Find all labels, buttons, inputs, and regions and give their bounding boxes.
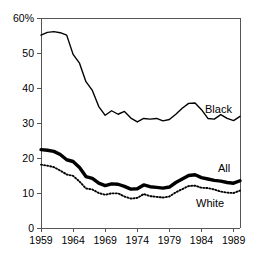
poverty-rate-line-chart: 0102030405060% 1959196419691974197919841… <box>0 0 256 259</box>
y-tick-label: 40 <box>22 82 34 94</box>
y-tick-label: 20 <box>22 152 34 164</box>
x-tick-label: 1979 <box>158 234 182 246</box>
y-tick-label: 30 <box>22 117 34 129</box>
series-label-black: Black <box>205 103 232 115</box>
series-line-all <box>41 150 240 190</box>
y-tick-label: 60% <box>13 12 34 24</box>
x-tick-label: 1984 <box>190 234 214 246</box>
x-tick-label: 1989 <box>222 234 246 246</box>
y-axis-ticks: 0102030405060% <box>13 12 41 234</box>
y-tick-label: 50 <box>22 47 34 59</box>
x-tick-label: 1974 <box>126 234 150 246</box>
series-label-all: All <box>218 162 230 174</box>
series-line-white <box>41 165 240 199</box>
series-label-white: White <box>196 197 224 209</box>
y-tick-label: 0 <box>28 222 34 234</box>
chart-canvas: 0102030405060% 1959196419691974197919841… <box>0 0 256 259</box>
x-axis-ticks: 1959196419691974197919841989 <box>29 228 245 246</box>
x-tick-label: 1969 <box>94 234 118 246</box>
x-tick-label: 1964 <box>61 234 85 246</box>
series-group <box>41 32 240 199</box>
x-tick-label: 1959 <box>29 234 53 246</box>
y-tick-label: 10 <box>22 187 34 199</box>
